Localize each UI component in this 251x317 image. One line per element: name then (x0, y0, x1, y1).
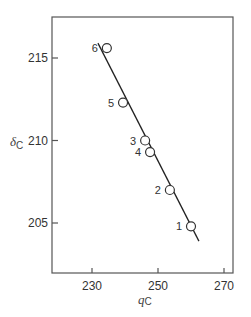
data-point-label: 5 (108, 97, 114, 109)
y-axis-ticks: 205210215 (28, 51, 58, 230)
y-tick-label: 205 (28, 216, 48, 230)
data-point-label: 2 (155, 184, 161, 196)
x-tick-label: 230 (82, 279, 102, 293)
data-point-marker (146, 148, 155, 157)
x-tick-label: 250 (148, 279, 168, 293)
scatter-chart: 230250270 205210215 123456 δC qC (0, 0, 251, 317)
x-axis-ticks: 230250270 (82, 268, 234, 293)
data-point-marker (165, 186, 174, 195)
x-tick-label: 270 (214, 279, 234, 293)
data-point-marker (102, 44, 111, 53)
plot-frame (52, 17, 233, 273)
x-axis-label: qC (138, 292, 152, 307)
data-point-label: 1 (176, 220, 182, 232)
data-point-marker (119, 98, 128, 107)
data-point-label: 3 (130, 135, 136, 147)
data-point-marker (141, 136, 150, 145)
y-tick-label: 215 (28, 51, 48, 65)
data-point-marker (187, 222, 196, 231)
data-point-label: 4 (135, 146, 141, 158)
data-point-label: 6 (92, 42, 98, 54)
y-tick-label: 210 (28, 134, 48, 148)
y-axis-label: δC (10, 134, 23, 151)
